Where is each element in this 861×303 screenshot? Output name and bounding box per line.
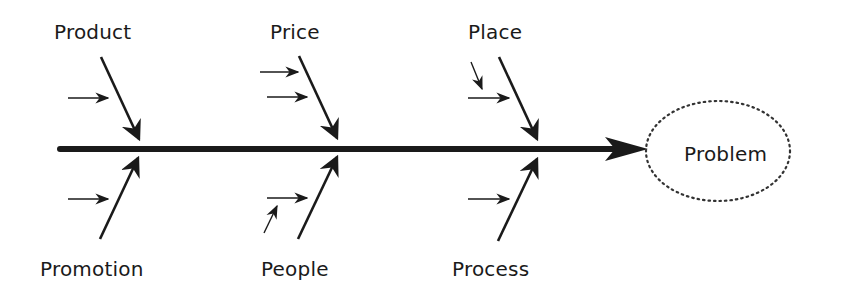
category-label-people: People	[261, 257, 329, 281]
bone-place	[468, 57, 537, 139]
bone-product	[68, 57, 139, 139]
bone-price	[260, 56, 337, 138]
category-label-product: Product	[54, 20, 131, 44]
category-label-promotion: Promotion	[40, 257, 144, 281]
effect-label-problem: Problem	[684, 142, 767, 166]
spine-arrow	[60, 137, 648, 161]
sub-sub-cause-arrow	[471, 62, 482, 89]
sub-sub-cause-arrow	[264, 206, 277, 233]
bone-people	[264, 157, 337, 239]
category-label-process: Process	[452, 257, 529, 281]
bone-promotion	[68, 158, 138, 239]
category-label-price: Price	[270, 20, 320, 44]
category-label-place: Place	[468, 20, 522, 44]
bone-process	[468, 159, 537, 241]
